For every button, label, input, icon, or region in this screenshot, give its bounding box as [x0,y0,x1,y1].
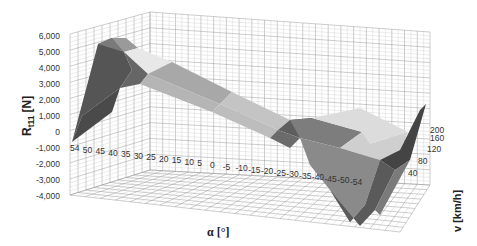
x-tick-label: 50 [83,145,93,155]
x-tick-label: 25 [146,152,156,162]
x-axis-label: α [°] [207,225,230,239]
x-tick-label: -15 [248,165,261,175]
y-axis-label: Rt11[N] [20,96,36,136]
y-tick-label: 5,000 [39,47,61,57]
y-tick-label: 0 [55,127,60,137]
chart-canvas: 6,0005,0004,0003,0002,0001,0000-1,000-2,… [0,0,477,246]
x-tick-label: 20 [159,154,169,164]
surface-chart: 6,0005,0004,0003,0002,0001,0000-1,000-2,… [0,0,477,246]
y-tick-label: -2,000 [36,159,60,169]
y-tick-label: -1,000 [36,143,60,153]
x-tick-label: 54 [70,143,80,153]
x-tick-label: 45 [95,146,105,156]
x-tick-label: -50 [337,175,350,185]
x-tick-label: -30 [286,169,299,179]
z-tick-label: 160 [430,133,444,143]
z-tick-label: 120 [427,144,441,154]
y-tick-label: 6,000 [39,31,61,41]
x-tick-label: 5 [197,158,202,168]
y-axis: 6,0005,0004,0003,0002,0001,0000-1,000-2,… [36,31,60,201]
y-tick-label: 2,000 [39,95,61,105]
x-tick-label: -35 [299,171,312,181]
x-tick-label: 35 [121,149,131,159]
y-tick-label: 4,000 [39,63,61,73]
x-tick-label: -10 [235,163,248,173]
x-tick-label: 30 [134,151,144,161]
x-tick-label: -20 [261,166,274,176]
z-axis-label: v [km/h] [451,189,463,232]
y-tick-label: 3,000 [39,79,61,89]
y-tick-label: 1,000 [39,111,61,121]
y-tick-label: -4,000 [36,191,60,201]
x-tick-label: 0 [210,160,215,170]
x-tick-label: -54 [350,177,363,187]
x-tick-label: -25 [274,168,287,178]
x-tick-label: 40 [108,148,118,158]
x-tick-label: -5 [223,162,231,172]
y-tick-label: -3,000 [36,175,60,185]
z-tick-label: 80 [418,156,428,166]
x-tick-label: 15 [172,155,182,165]
x-tick-label: 10 [185,157,195,167]
x-tick-label: -40 [312,172,325,182]
x-tick-label: -45 [325,174,338,184]
z-tick-label: 40 [408,168,418,178]
